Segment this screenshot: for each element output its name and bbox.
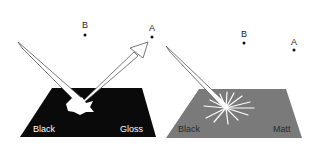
point-a-label: A — [149, 23, 155, 33]
matt-right-label: Matt — [273, 124, 291, 134]
point-b-dot — [84, 34, 87, 37]
matt-left-label: Black — [178, 124, 201, 134]
point-a-dot — [293, 49, 296, 52]
point-a-dot — [151, 36, 154, 39]
point-b-label: B — [82, 20, 88, 30]
gloss-panel: B A Black Gloss — [18, 20, 156, 137]
matt-panel: B A Black Matt — [166, 29, 302, 138]
reflection-diagram: B A Black Gloss B A Black Mat — [0, 0, 318, 150]
point-b-dot — [243, 42, 246, 45]
gloss-right-label: Gloss — [120, 124, 144, 134]
gloss-left-label: Black — [33, 124, 56, 134]
point-b-label: B — [241, 29, 247, 39]
point-a-label: A — [291, 37, 297, 47]
